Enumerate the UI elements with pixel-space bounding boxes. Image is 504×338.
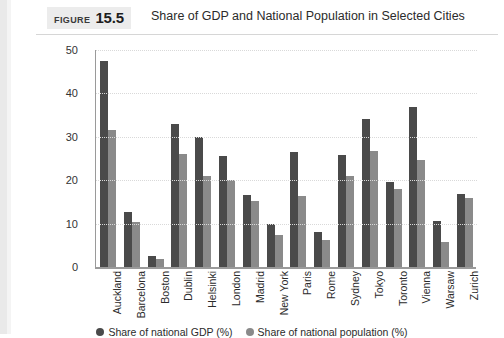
bar-gdp (124, 212, 132, 267)
legend-label: Share of national population (%) (258, 326, 408, 338)
bar-group (191, 50, 215, 267)
bar-population (346, 176, 354, 267)
bar-gdp (243, 195, 251, 267)
y-axis-tick-labels: 01020304050 (0, 50, 88, 267)
x-axis-line (95, 267, 476, 269)
x-axis-tick-label: Vienna (420, 271, 432, 304)
bar-group (382, 50, 406, 267)
bar-group (358, 50, 382, 267)
bar-gdp (148, 256, 156, 267)
legend-dot-icon (96, 328, 104, 336)
bar-gdp (219, 156, 227, 267)
figure-label-word: FIGURE (54, 15, 90, 25)
bar-population (156, 259, 164, 267)
y-axis-tick-label: 50 (66, 44, 78, 56)
bar-gdp (338, 155, 346, 267)
bar-population (465, 198, 473, 267)
gridline (96, 93, 477, 94)
bar-chart: 01020304050 AucklandBarcelonaBostonDubli… (0, 38, 504, 334)
bar-gdp (195, 137, 203, 267)
plot-area (95, 50, 477, 267)
bar-group (429, 50, 453, 267)
bar-group (96, 50, 120, 267)
gridline (96, 224, 477, 225)
x-axis-tick-label: Paris (301, 271, 313, 295)
figure-header: FIGURE 15.5 Share of GDP and National Po… (11, 0, 504, 34)
y-axis-tick-label: 40 (66, 87, 78, 99)
figure-title: Share of GDP and National Population in … (151, 9, 465, 23)
figure-number: 15.5 (95, 9, 123, 26)
bar-population (108, 130, 116, 267)
x-axis-tick-labels: AucklandBarcelonaBostonDublinHelsinkiLon… (95, 271, 476, 329)
bar-gdp (100, 61, 108, 267)
x-axis-tick-label: Barcelona (135, 271, 147, 318)
x-axis-tick-label: Madrid (254, 271, 266, 303)
bar-population (275, 235, 283, 267)
bar-group (239, 50, 263, 267)
x-axis-tick-label: Zurich (468, 271, 480, 300)
x-axis-tick-label: Helsinki (206, 271, 218, 308)
bar-group (215, 50, 239, 267)
bar-gdp (457, 194, 465, 267)
y-axis-tick-label: 0 (72, 261, 78, 273)
gridline (96, 50, 477, 51)
x-axis-tick-label: New York (278, 271, 290, 315)
bar-group (120, 50, 144, 267)
bar-group (144, 50, 168, 267)
bar-gdp (409, 107, 417, 267)
bar-group (263, 50, 287, 267)
bar-gdp (267, 224, 275, 267)
y-axis-tick-label: 20 (66, 174, 78, 186)
x-axis-tick-label: Dublin (182, 271, 194, 301)
x-axis-tick-label: Warsaw (444, 271, 456, 309)
bar-population (251, 201, 259, 267)
figure-badge: FIGURE 15.5 (47, 7, 131, 29)
y-axis-tick-label: 10 (66, 218, 78, 230)
bar-population (132, 222, 140, 267)
bar-population (441, 242, 449, 267)
bar-population (370, 151, 378, 267)
bar-population (179, 154, 187, 267)
bar-gdp (171, 124, 179, 267)
x-axis-tick-label: London (230, 271, 242, 306)
bar-series-container (96, 50, 477, 267)
legend-dot-icon (246, 328, 254, 336)
bar-gdp (433, 221, 441, 267)
bar-gdp (362, 119, 370, 267)
bar-group (406, 50, 430, 267)
bar-gdp (290, 152, 298, 267)
bar-population (298, 196, 306, 267)
bar-population (322, 240, 330, 267)
y-axis-tick-label: 30 (66, 131, 78, 143)
gridline (96, 137, 477, 138)
legend-label: Share of national GDP (%) (108, 326, 232, 338)
legend-item[interactable]: Share of national population (%) (246, 326, 408, 338)
bar-group (334, 50, 358, 267)
legend-item[interactable]: Share of national GDP (%) (96, 326, 232, 338)
bar-population (394, 189, 402, 267)
bar-population (417, 160, 425, 267)
x-axis-tick-label: Toronto (397, 271, 409, 306)
x-axis-tick-label: Boston (159, 271, 171, 304)
chart-legend: Share of national GDP (%)Share of nation… (0, 326, 504, 338)
x-axis-tick-label: Sydney (349, 271, 361, 306)
x-axis-tick-label: Rome (325, 271, 337, 299)
gridline (96, 180, 477, 181)
x-axis-tick-label: Tokyo (373, 271, 385, 298)
header-divider (36, 34, 498, 35)
bar-group (167, 50, 191, 267)
bar-population (203, 176, 211, 267)
bar-group (310, 50, 334, 267)
bar-group (453, 50, 477, 267)
bar-group (287, 50, 311, 267)
x-axis-tick-label: Auckland (111, 271, 123, 314)
bar-gdp (314, 232, 322, 267)
bar-gdp (386, 182, 394, 267)
